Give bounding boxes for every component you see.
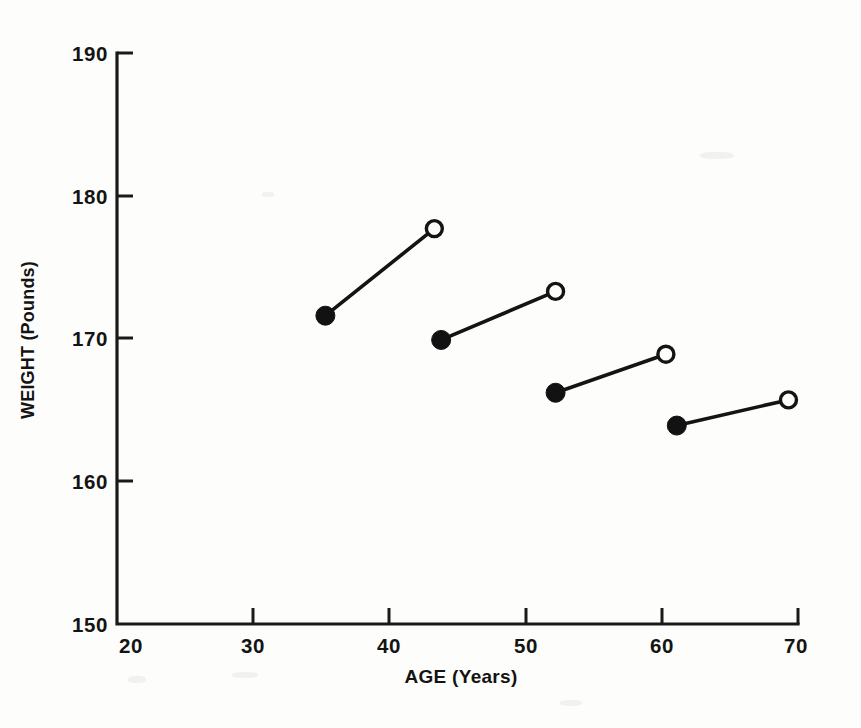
x-tick-label: 40	[377, 634, 401, 657]
x-tick-label: 20	[119, 634, 143, 657]
x-tick-label: 30	[241, 634, 265, 657]
filled-circle-marker	[667, 416, 686, 435]
y-tick-label: 170	[72, 327, 108, 350]
x-tick-label: 50	[514, 634, 538, 657]
figure-panel: 190 180 170 160 150 20 30 40 50 60 70 AG…	[0, 0, 861, 728]
data-series-layer	[316, 221, 797, 435]
open-circle-marker	[426, 221, 442, 237]
y-axis-title: WEIGHT (Pounds)	[18, 261, 38, 419]
y-tick-label: 190	[72, 42, 108, 65]
x-tick-label: 60	[650, 634, 674, 657]
segment-line	[441, 291, 555, 340]
x-tick-label: 70	[784, 634, 808, 657]
axis-lines	[117, 53, 798, 624]
open-circle-marker	[780, 392, 796, 408]
chart-canvas: 190 180 170 160 150 20 30 40 50 60 70 AG…	[0, 0, 861, 728]
y-tick-labels: 190 180 170 160 150	[72, 42, 108, 636]
filled-circle-marker	[316, 306, 335, 325]
x-axis-title: AGE (Years)	[404, 666, 517, 687]
filled-circle-marker	[432, 330, 451, 349]
x-tick-labels: 20 30 40 50 60 70	[119, 634, 808, 657]
y-tick-label: 150	[72, 613, 108, 636]
segment-line	[677, 400, 789, 426]
y-axis-ticks	[117, 53, 133, 481]
data-segment	[546, 346, 674, 402]
data-segment	[316, 221, 442, 326]
y-tick-label: 180	[72, 185, 108, 208]
filled-circle-marker	[546, 383, 565, 402]
segment-line	[556, 354, 666, 393]
data-segment	[667, 392, 796, 435]
x-axis-ticks	[253, 608, 798, 624]
open-circle-marker	[658, 346, 674, 362]
y-tick-label: 160	[72, 470, 108, 493]
segment-line	[325, 229, 434, 316]
data-segment	[432, 283, 564, 349]
open-circle-marker	[548, 283, 564, 299]
